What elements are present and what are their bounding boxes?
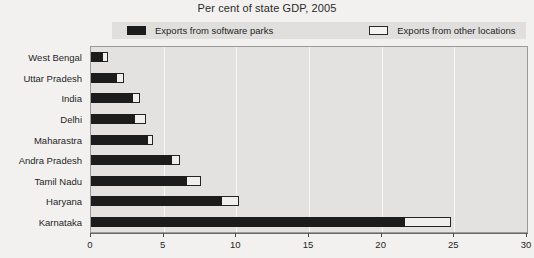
x-tick-20: [381, 233, 382, 237]
x-axis-baseline: [90, 233, 528, 234]
bar-track: [91, 217, 451, 227]
x-tick-10: [235, 233, 236, 237]
bar-segment-software-parks: [91, 196, 222, 206]
x-tick-label-30: 30: [521, 239, 532, 250]
x-tick-5: [163, 233, 164, 237]
chart-title: Per cent of state GDP, 2005: [0, 2, 534, 14]
y-axis-label-karnataka: Karnataka: [39, 216, 82, 227]
x-tick-15: [308, 233, 309, 237]
legend-entry-software-parks: Exports from software parks: [127, 22, 273, 39]
y-axis-label-haryana: Haryana: [46, 196, 82, 207]
bar-segment-software-parks: [91, 217, 405, 227]
bar-segment-software-parks: [91, 176, 187, 186]
x-axis: 051015202530: [90, 233, 528, 258]
bar-track: [91, 114, 146, 124]
bars-layer: [91, 47, 527, 232]
x-tick-25: [453, 233, 454, 237]
x-tick-label-25: 25: [448, 239, 459, 250]
x-tick-label-10: 10: [230, 239, 241, 250]
bar-track: [91, 176, 201, 186]
y-axis-label-west-bengal: West Bengal: [28, 52, 82, 63]
bar-track: [91, 52, 108, 62]
y-axis-label-andra-pradesh: Andra Pradesh: [19, 155, 82, 166]
y-axis-label-india: India: [61, 93, 82, 104]
legend-label-software-parks: Exports from software parks: [155, 25, 273, 36]
bar-segment-software-parks: [91, 135, 148, 145]
bar-segment-software-parks: [91, 155, 172, 165]
bar-row: [91, 191, 239, 212]
x-tick-label-5: 5: [160, 239, 165, 250]
legend-entry-other-locations: Exports from other locations: [369, 22, 515, 39]
y-axis-label-tamil-nadu: Tamil Nadu: [34, 175, 82, 186]
bar-track: [91, 135, 153, 145]
bar-row: [91, 150, 180, 171]
chart-legend: Exports from software parks Exports from…: [112, 22, 526, 39]
bar-track: [91, 196, 239, 206]
plot-area: [90, 46, 528, 233]
legend-swatch-light-icon: [369, 26, 388, 35]
y-axis-label-delhi: Delhi: [60, 113, 82, 124]
bar-track: [91, 93, 140, 103]
bar-track: [91, 73, 124, 83]
bar-row: [91, 109, 146, 130]
y-axis-label-maharastra: Maharastra: [34, 134, 82, 145]
legend-swatch-dark-icon: [127, 26, 146, 35]
bar-segment-software-parks: [91, 114, 135, 124]
bar-chart-figure: Per cent of state GDP, 2005 Exports from…: [0, 0, 534, 258]
bar-segment-software-parks: [91, 73, 117, 83]
x-tick-30: [526, 233, 527, 237]
bar-track: [91, 155, 180, 165]
x-tick-0: [90, 233, 91, 237]
y-axis-labels: West BengalUttar PradeshIndiaDelhiMahara…: [0, 46, 86, 233]
bar-row: [91, 211, 451, 232]
bar-row: [91, 47, 108, 68]
bar-row: [91, 68, 124, 89]
bar-segment-software-parks: [91, 52, 103, 62]
x-tick-label-20: 20: [375, 239, 386, 250]
x-tick-label-0: 0: [87, 239, 92, 250]
x-tick-label-15: 15: [303, 239, 314, 250]
y-axis-label-uttar-pradesh: Uttar Pradesh: [23, 72, 82, 83]
legend-label-other-locations: Exports from other locations: [397, 25, 515, 36]
bar-row: [91, 170, 201, 191]
bar-segment-software-parks: [91, 93, 133, 103]
bar-row: [91, 88, 140, 109]
bar-row: [91, 129, 153, 150]
